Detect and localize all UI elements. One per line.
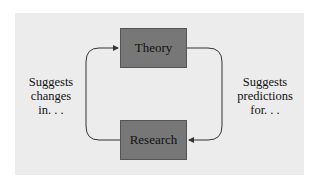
theory-node: Theory [120, 28, 187, 68]
arrow-research-to-theory [86, 48, 120, 140]
left-label-line-3: in. . . [22, 103, 80, 117]
research-label: Research [130, 132, 178, 148]
arrow-theory-to-research [187, 48, 222, 140]
left-label-line-2: changes [22, 89, 80, 103]
left-edge-label: Suggests changes in. . . [22, 75, 80, 117]
theory-label: Theory [135, 40, 173, 56]
right-label-line-3: for. . . [228, 103, 302, 117]
research-node: Research [120, 120, 187, 160]
right-label-line-1: Suggests [228, 75, 302, 89]
right-label-line-2: predictions [228, 89, 302, 103]
left-label-line-1: Suggests [22, 75, 80, 89]
right-edge-label: Suggests predictions for. . . [228, 75, 302, 117]
